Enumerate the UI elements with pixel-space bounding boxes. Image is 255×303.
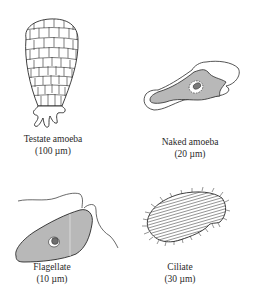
caption-flagellate: Flagellate (10 µm) (12, 261, 92, 285)
organism-size: (30 µm) (140, 273, 220, 285)
panel-testate-amoeba: Testate amoeba (100 µm) (0, 0, 128, 170)
panel-naked-amoeba: Naked amoeba (20 µm) (128, 0, 255, 170)
caption-naked-amoeba: Naked amoeba (20 µm) (140, 136, 240, 160)
caption-ciliate: Ciliate (30 µm) (140, 261, 220, 285)
organism-name: Naked amoeba (140, 136, 240, 148)
organism-name: Testate amoeba (8, 133, 98, 145)
organism-name: Ciliate (140, 261, 220, 273)
organism-size: (10 µm) (12, 273, 92, 285)
organism-size: (20 µm) (140, 148, 240, 160)
panel-flagellate: Flagellate (10 µm) (0, 170, 128, 303)
organism-name: Flagellate (12, 261, 92, 273)
caption-testate-amoeba: Testate amoeba (100 µm) (8, 133, 98, 157)
organism-size: (100 µm) (8, 145, 98, 157)
panel-ciliate: Ciliate (30 µm) (128, 170, 255, 303)
